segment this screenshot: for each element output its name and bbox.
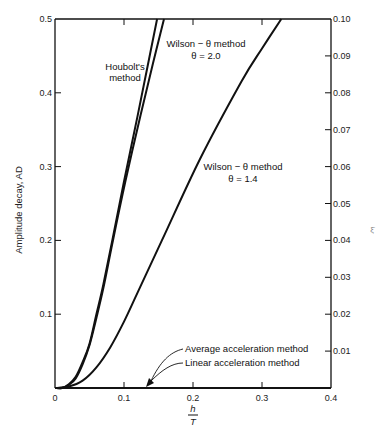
plot-frame (55, 19, 331, 388)
y-tick-label: 0.5 (39, 14, 52, 24)
x-axis-title-denominator: T (190, 416, 197, 427)
x-tick-label: 0 (52, 393, 57, 403)
y2-tick-label: 0.04 (333, 235, 351, 245)
y2-tick-labels: 0.010.020.030.040.050.060.070.080.090.10 (333, 14, 351, 356)
annotation-average-acceleration-text: Average acceleration method (185, 343, 308, 354)
x-axis-title-numerator: h (190, 403, 195, 414)
houbolt-curve (55, 19, 157, 388)
axis-ticks (55, 19, 331, 388)
y2-tick-label: 0.09 (333, 51, 351, 61)
curves (55, 19, 331, 388)
y2-axis-title: ξ̄ (370, 225, 376, 234)
y2-tick-label: 0.07 (333, 125, 351, 135)
x-tick-label: 0.1 (118, 393, 131, 403)
annotation-linear-acceleration: Linear acceleration method (146, 357, 300, 387)
annotation-houbolt-line2: method (109, 72, 141, 83)
x-tick-label: 0.3 (256, 393, 269, 403)
y-tick-label: 0.1 (39, 309, 52, 319)
x-tick-labels: 00.10.20.30.4 (52, 393, 337, 403)
x-tick-label: 0.4 (325, 393, 338, 403)
wilson-1-4-curve (55, 19, 281, 388)
annotation-wilson-2-line1: Wilson − θ method (167, 38, 246, 49)
annotation-linear-acceleration-text: Linear acceleration method (185, 357, 300, 368)
annotation-wilson-2-line2: θ = 2.0 (191, 50, 220, 61)
y-axis-title: Amplitude decay, AD (13, 166, 24, 254)
annotation-wilson-1-4-line2: θ = 1.4 (228, 173, 257, 184)
y2-tick-label: 0.10 (333, 14, 351, 24)
y2-tick-label: 0.08 (333, 88, 351, 98)
y2-tick-label: 0.01 (333, 346, 351, 356)
annotation-wilson-1-4: Wilson − θ method θ = 1.4 (204, 161, 283, 184)
annotation-houbolt: Houbolt's method (105, 61, 145, 83)
annotation-wilson-1-4-line1: Wilson − θ method (204, 161, 283, 172)
chart: 00.10.20.30.4 0.10.20.30.40.5 0.010.020.… (0, 0, 388, 439)
annotation-houbolt-line1: Houbolt's (105, 61, 145, 72)
x-axis-title: h T (188, 403, 198, 427)
x-tick-label: 0.2 (187, 393, 200, 403)
y-tick-label: 0.2 (39, 235, 52, 245)
y2-tick-label: 0.05 (333, 199, 351, 209)
y-tick-label: 0.4 (39, 88, 52, 98)
y-tick-label: 0.3 (39, 162, 52, 172)
y-tick-labels: 0.10.20.30.40.5 (39, 14, 52, 319)
y2-tick-label: 0.06 (333, 162, 351, 172)
annotation-wilson-2: Wilson − θ method θ = 2.0 (167, 38, 246, 61)
y2-tick-label: 0.03 (333, 272, 351, 282)
y2-tick-label: 0.02 (333, 309, 351, 319)
